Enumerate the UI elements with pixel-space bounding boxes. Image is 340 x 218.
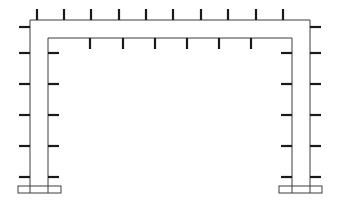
portal-frame-figure	[0, 0, 340, 218]
frame-drawing-canvas	[0, 0, 340, 218]
drawing-background	[0, 0, 340, 218]
